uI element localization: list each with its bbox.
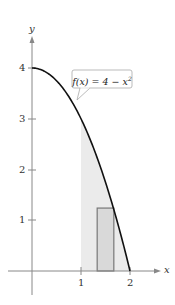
approximating-rectangle (97, 208, 114, 271)
chart-plot (0, 0, 175, 305)
y-tick-label-2: 2 (19, 165, 25, 175)
x-axis-arrow-icon (154, 269, 161, 274)
function-label: f(x) = 4 − x2 (72, 70, 132, 88)
callout-pointer (77, 88, 90, 100)
x-axis-label: x (164, 265, 170, 275)
y-tick-label-3: 3 (19, 114, 25, 124)
y-axis-label: y (29, 24, 35, 34)
y-tick-label-1: 1 (19, 215, 25, 225)
x-tick-label-1: 1 (78, 278, 84, 288)
y-axis-arrow-icon (30, 36, 35, 43)
y-tick-label-4: 4 (19, 63, 25, 73)
x-tick-label-2: 2 (127, 278, 133, 288)
